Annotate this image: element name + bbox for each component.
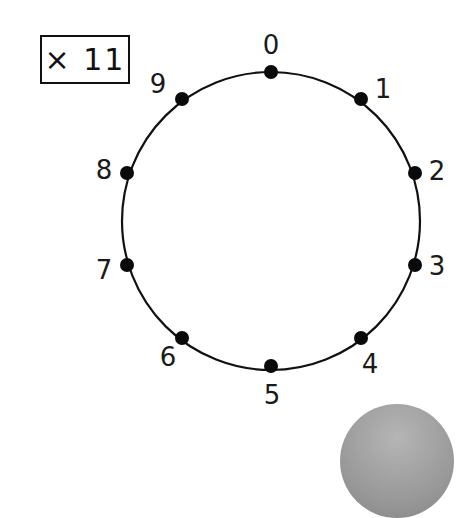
point-dot-4	[354, 331, 368, 345]
point-dot-7	[120, 258, 134, 272]
number-circle	[122, 72, 420, 370]
point-label-5: 5	[264, 382, 281, 408]
point-dot-3	[408, 258, 422, 272]
point-label-7: 7	[96, 257, 113, 283]
point-dot-9	[175, 92, 189, 106]
point-label-0: 0	[263, 32, 280, 58]
point-label-9: 9	[150, 71, 167, 97]
point-label-4: 4	[362, 351, 379, 377]
point-label-6: 6	[160, 344, 177, 370]
point-label-8: 8	[96, 157, 113, 183]
point-dot-6	[175, 331, 189, 345]
point-dot-2	[408, 166, 422, 180]
point-label-2: 2	[429, 158, 446, 184]
point-label-1: 1	[375, 76, 392, 102]
partial-grey-circle	[340, 404, 454, 518]
point-dot-1	[354, 92, 368, 106]
point-dot-8	[120, 166, 134, 180]
point-dot-0	[264, 65, 278, 79]
point-dot-5	[264, 359, 278, 373]
point-label-3: 3	[429, 253, 446, 279]
